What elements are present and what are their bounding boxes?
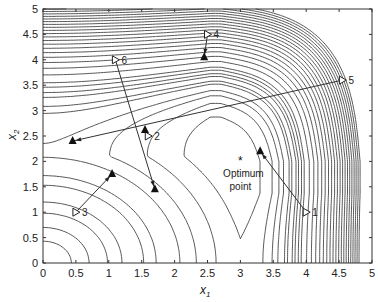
x-tick-label: 3.5 [266,267,281,279]
x-tick-label: 2 [172,267,178,279]
y-tick-label: 0 [32,257,38,269]
contour-plot: 00.511.522.533.544.5500.511.522.533.544.… [0,0,378,302]
trajectory-label: 2 [154,131,160,142]
trajectory-label: 4 [214,29,220,40]
trajectory-label: 1 [312,207,318,218]
y-tick-label: 2 [32,155,38,167]
x-tick-label: 0 [40,267,46,279]
end-marker-icon [151,184,159,192]
contour-lines [43,9,360,263]
end-marker-icon [200,52,208,60]
x-tick-label: 1.5 [134,267,149,279]
y-axis-label: x2 [5,129,21,141]
end-marker-icon [256,146,264,154]
x-tick-label: 4.5 [331,267,346,279]
y-tick-label: 1.5 [23,181,38,193]
svg-text:x2: x2 [5,129,21,141]
trajectory-label: 3 [82,207,88,218]
trajectory-4: 4 [200,29,219,60]
optimum-star-icon: * [238,154,243,168]
y-tick-label: 5 [32,3,38,15]
x-axis-label: x1 [199,283,210,299]
x-tick-label: 2.5 [200,267,215,279]
start-marker-icon [205,30,212,38]
end-marker-icon [141,125,149,133]
x-tick-label: 0.5 [68,267,83,279]
x-tick-label: 4 [303,267,309,279]
optimum-label: Optimum [223,168,264,179]
optimum-point: *Optimumpoint [223,154,264,192]
trajectory-label: 5 [348,75,354,86]
y-tick-label: 1 [32,206,38,218]
y-tick-label: 2.5 [23,130,38,142]
x-tick-label: 3 [237,267,243,279]
trajectory-3: 3 [73,169,116,218]
y-tick-label: 4 [32,54,38,66]
x-tick-label: 5 [369,267,375,279]
y-tick-label: 3 [32,105,38,117]
start-marker-icon [303,208,310,216]
y-tick-label: 4.5 [23,28,38,40]
trajectory-label: 6 [121,55,127,66]
optimum-label-2: point [230,181,252,192]
y-tick-label: 3.5 [23,79,38,91]
y-tick-label: 0.5 [23,232,38,244]
x-tick-label: 1 [106,267,112,279]
